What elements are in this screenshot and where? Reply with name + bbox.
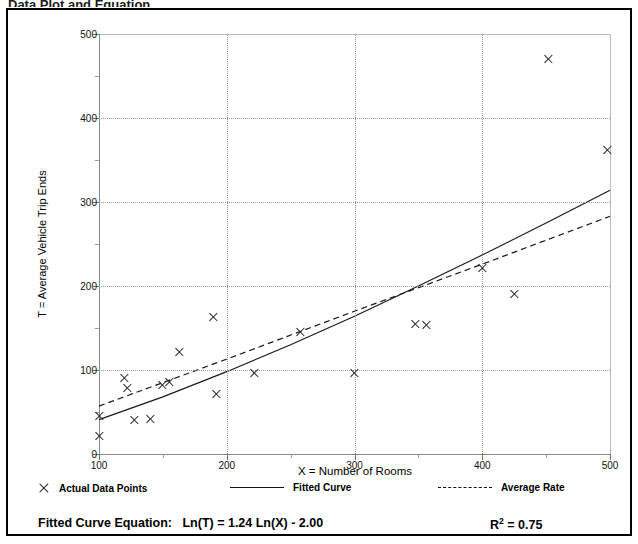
chart-page: Data Plot and Equation T = Average Vehic…	[0, 0, 638, 544]
legend-label: Average Rate	[501, 482, 565, 493]
x-tick-minor	[163, 454, 164, 458]
legend-item-average-rate: Average Rate	[438, 482, 565, 493]
y-axis-title: T = Average Vehicle Trip Ends	[34, 34, 50, 454]
plot-right-border	[610, 34, 611, 455]
legend-label: Actual Data Points	[59, 483, 147, 494]
y-tick-minor	[95, 160, 99, 161]
y-tick-label: 500	[80, 29, 97, 40]
r-squared-symbol: R	[490, 518, 499, 532]
legend-item-actual-data-points: Actual Data Points	[38, 482, 147, 494]
r-squared-annotation: R2 = 0.75	[490, 516, 542, 532]
dashed-line-icon	[438, 487, 492, 488]
y-tick-label: 300	[80, 197, 97, 208]
legend-item-fitted-curve: Fitted Curve	[230, 482, 351, 493]
fitted-curve-equation: Fitted Curve Equation: Ln(T) = 1.24 Ln(X…	[38, 516, 323, 530]
equation-value: Ln(T) = 1.24 Ln(X) - 2.00	[182, 516, 323, 530]
gridline-vertical	[482, 34, 483, 454]
plot-canvas: 0100200300400500100200300400500	[99, 34, 610, 454]
r-squared-value: = 0.75	[507, 518, 542, 532]
y-tick-label: 100	[80, 365, 97, 376]
x-marker-icon	[38, 482, 50, 494]
y-tick-minor	[95, 412, 99, 413]
y-tick-label: 400	[80, 113, 97, 124]
x-tick-minor	[418, 454, 419, 458]
chart-frame: T = Average Vehicle Trip Ends 0100200300…	[6, 8, 632, 536]
y-axis-title-text: T = Average Vehicle Trip Ends	[36, 170, 48, 317]
legend-label: Fitted Curve	[293, 482, 351, 493]
equation-label: Fitted Curve Equation:	[38, 516, 172, 530]
clipped-header-text: Data Plot and Equation	[8, 0, 630, 7]
solid-line-icon	[230, 487, 284, 488]
chart-legend: Actual Data Points Fitted Curve Average …	[8, 482, 630, 508]
y-tick-label: 200	[80, 281, 97, 292]
y-tick-label: 0	[91, 449, 97, 460]
equation-row: Fitted Curve Equation: Ln(T) = 1.24 Ln(X…	[8, 516, 630, 544]
plot-area: T = Average Vehicle Trip Ends 0100200300…	[8, 10, 630, 480]
x-tick-minor	[291, 454, 292, 458]
gridline-vertical	[355, 34, 356, 454]
y-tick-minor	[95, 76, 99, 77]
x-axis-title: X = Number of Rooms	[99, 465, 611, 477]
r-squared-exponent: 2	[499, 516, 504, 526]
gridline-vertical	[227, 34, 228, 454]
y-tick-minor	[95, 328, 99, 329]
x-tick-minor	[546, 454, 547, 458]
y-tick-minor	[95, 244, 99, 245]
